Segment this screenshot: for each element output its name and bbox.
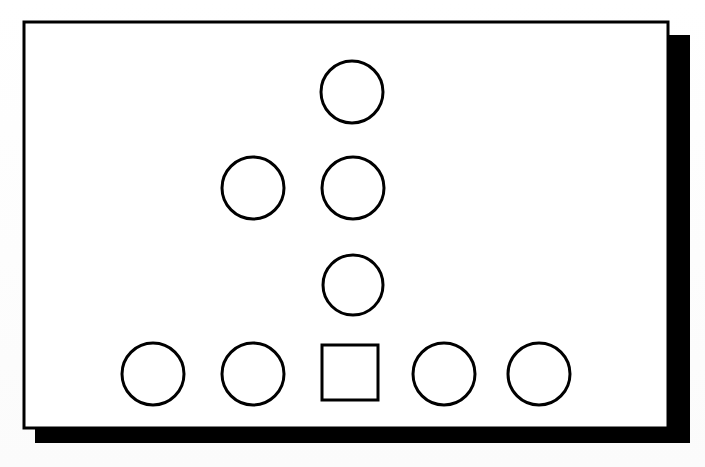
diagram-canvas — [0, 0, 705, 467]
outer-frame — [24, 22, 668, 428]
shape-pattern-diagram — [0, 0, 705, 467]
